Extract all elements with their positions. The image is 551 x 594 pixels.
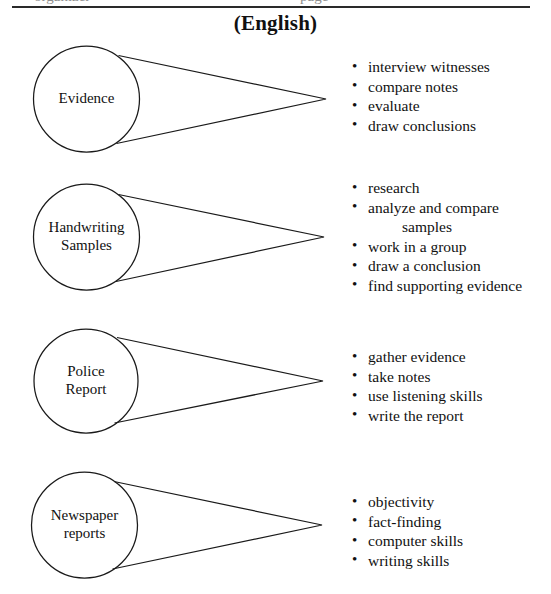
bullet-item: fact-finding [352,512,463,532]
circle-label-newspaper-reports: Newspaper reports [25,506,145,542]
bullet-item: objectivity [352,492,463,512]
megaphone-shape-newspaper-reports [0,0,551,594]
bullet-item: computer skills [352,531,463,551]
bullet-item: writing skills [352,551,463,571]
bullet-list-newspaper-reports: objectivity fact-finding computer skills… [352,492,463,570]
worksheet-page: organizer page (English) Evidence interv… [0,0,551,594]
